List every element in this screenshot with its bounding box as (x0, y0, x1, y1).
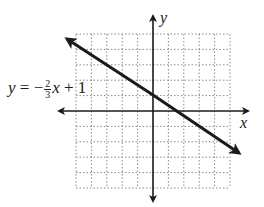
eq-fraction: 23 (44, 79, 51, 100)
x-axis-label: x (240, 115, 247, 131)
eq-y: y (8, 78, 16, 97)
eq-x: x (52, 78, 60, 97)
coordinate-plane (0, 0, 264, 207)
eq-equals: = − (16, 78, 44, 97)
y-axis-label: y (160, 10, 167, 26)
equation-label: y = −23x + 1 (8, 78, 86, 100)
eq-denominator: 3 (44, 90, 51, 100)
eq-rest: + 1 (60, 78, 87, 97)
eq-numerator: 2 (44, 79, 51, 90)
